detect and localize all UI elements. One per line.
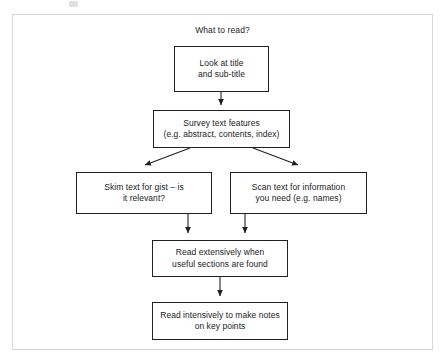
node-scan-text: Scan text for information you need (e.g.… <box>230 172 367 214</box>
node-label: Skim text for gist – is it relevant? <box>104 182 184 205</box>
node-read-extensively: Read extensively when useful sections ar… <box>152 240 288 277</box>
node-survey-text-features: Survey text features (e.g. abstract, con… <box>153 110 290 148</box>
scan-artifact <box>69 1 78 7</box>
diagram-canvas: What to read? <box>0 0 445 363</box>
node-label: Read extensively when useful sections ar… <box>172 247 268 270</box>
node-label: Read intensively to make notes on key po… <box>160 310 280 333</box>
node-skim-text: Skim text for gist – is it relevant? <box>76 172 212 214</box>
node-label: Look at title and sub-title <box>198 58 245 81</box>
node-label: Survey text features (e.g. abstract, con… <box>164 118 280 141</box>
node-label: Scan text for information you need (e.g.… <box>252 182 345 205</box>
diagram-title: What to read? <box>0 25 445 35</box>
node-look-at-title: Look at title and sub-title <box>174 46 269 92</box>
node-read-intensively: Read intensively to make notes on key po… <box>152 302 288 340</box>
